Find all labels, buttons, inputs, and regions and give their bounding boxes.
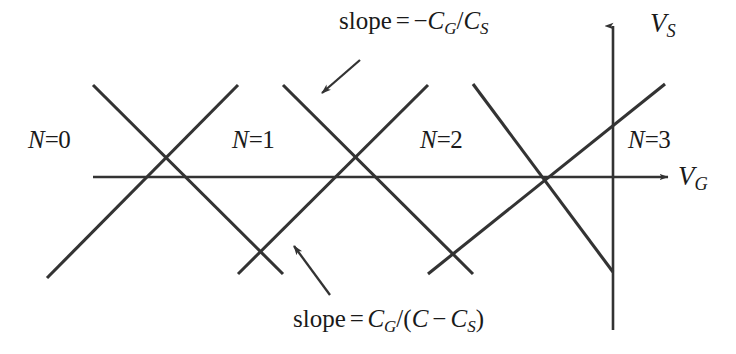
slope-upper-denominator-variable: C	[463, 7, 480, 34]
slope-lower-paren-close: )	[476, 305, 484, 332]
axis-vs-variable: V	[650, 8, 667, 38]
axis-vg-subscript: G	[695, 174, 708, 194]
diamond-lines-negative-slope	[93, 84, 613, 274]
slope-upper-numerator-variable: C	[428, 7, 445, 34]
slope-negative-annotation-text: slope=−CG/CS	[339, 8, 489, 37]
slope-lower-denominator-subscript-2: S	[467, 317, 476, 336]
slope-upper-minus: −	[413, 7, 427, 34]
slope-upper-word: slope	[339, 7, 392, 34]
slope-upper-numerator-subscript: G	[444, 19, 456, 38]
region-n3-variable: N	[628, 126, 645, 153]
region-n2-value: 2	[450, 126, 463, 153]
axis-label-vg: VG	[678, 163, 708, 194]
region-n2-equals: =	[437, 126, 451, 153]
upper-annotation-leader-arrow	[322, 60, 360, 93]
diagram-canvas	[0, 0, 736, 354]
region-label-n1: N=1	[232, 127, 275, 152]
negative-slope-line-2	[283, 85, 473, 274]
lower-annotation-leader-arrow	[294, 246, 330, 295]
slope-lower-minus: −	[428, 305, 450, 332]
stability-diagram-figure: N=0 N=1 N=2 N=3 VS VG slope=−CG/CS slope…	[0, 0, 736, 354]
region-n3-value: 3	[658, 126, 671, 153]
axis-label-vs: VS	[650, 10, 676, 41]
region-n2-variable: N	[420, 126, 437, 153]
region-n1-value: 1	[262, 126, 275, 153]
slope-lower-denominator-variable-1: C	[412, 305, 429, 332]
region-n1-equals: =	[249, 126, 263, 153]
slope-lower-denominator-variable-2: C	[450, 305, 467, 332]
region-n3-equals: =	[645, 126, 659, 153]
slope-lower-equals: =	[346, 305, 368, 332]
region-n0-equals: =	[45, 126, 59, 153]
slope-lower-numerator-subscript: G	[384, 317, 396, 336]
region-label-n3: N=3	[628, 127, 671, 152]
negative-slope-line-1	[93, 85, 283, 274]
positive-slope-line-2	[238, 85, 428, 274]
slope-lower-paren-open: (	[403, 305, 411, 332]
positive-slope-line-1	[47, 85, 238, 278]
region-label-n2: N=2	[420, 127, 463, 152]
positive-slope-line-3	[428, 84, 665, 274]
slope-upper-denominator-subscript: S	[480, 19, 489, 38]
axis-vg-variable: V	[678, 161, 695, 191]
region-n0-variable: N	[28, 126, 45, 153]
region-n0-value: 0	[58, 126, 71, 153]
diamond-lines-positive-slope	[47, 84, 665, 278]
slope-positive-annotation-text: slope=CG/(C−CS)	[293, 306, 484, 335]
axis-vs-subscript: S	[667, 21, 676, 41]
region-label-n0: N=0	[28, 127, 71, 152]
slope-lower-numerator-variable: C	[367, 305, 384, 332]
slope-upper-equals: =	[392, 7, 414, 34]
slope-lower-word: slope	[293, 305, 346, 332]
region-n1-variable: N	[232, 126, 249, 153]
